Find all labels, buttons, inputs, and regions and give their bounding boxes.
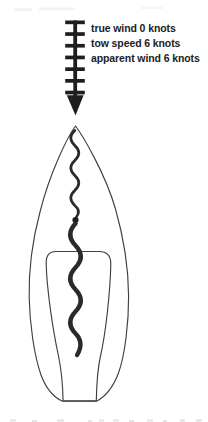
wind-arrow-icon [65, 21, 85, 116]
diagram-canvas: true wind 0 knots tow speed 6 knots appa… [0, 0, 208, 422]
arrow-feather [65, 91, 85, 95]
arrow-feather [65, 32, 85, 36]
arrow-feather [65, 21, 85, 25]
wind-labels: true wind 0 knots tow speed 6 knots appa… [91, 21, 200, 66]
label-apparent-wind: apparent wind 6 knots [91, 51, 200, 66]
arrow-feather [65, 67, 85, 71]
arrow-feather [65, 79, 85, 83]
cockpit-outline [46, 252, 111, 401]
arrow-head [67, 95, 84, 115]
deck-telltale-streamer [70, 224, 81, 356]
page-artifacts [10, 7, 202, 422]
label-tow-speed: tow speed 6 knots [91, 36, 200, 51]
arrow-feather [65, 56, 85, 60]
bow-telltale-streamer [71, 131, 79, 218]
arrow-feather [65, 44, 85, 48]
label-true-wind: true wind 0 knots [91, 21, 200, 36]
